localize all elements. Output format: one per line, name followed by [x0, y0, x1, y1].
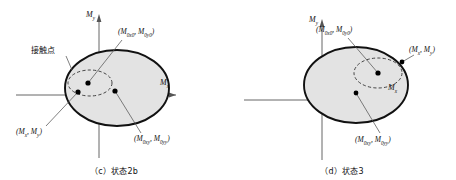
figure-container: Mx My 接触点 (M0x0, M0y0) (Mx, My) (M0xy, M… — [0, 0, 456, 180]
caption-panel-d: （d）状态3 — [228, 165, 456, 176]
label-center-current-c: (M0xy, M0yy) — [134, 135, 170, 143]
label-contact-point-d: (Mx, My) — [409, 46, 435, 54]
label-center-initial-c: (M0x0, M0y0) — [118, 28, 154, 36]
marker-contact-point-c — [75, 89, 80, 94]
marker-dashed-center-d — [375, 70, 380, 75]
x-axis-label-d: Mx — [388, 84, 397, 92]
marker-solid-center-c — [112, 88, 117, 93]
panel-state-3: Mx My (M0x0, M0y0) (Mx, My) (M0xy, M0yy)… — [228, 0, 456, 180]
panel-c-graphic — [0, 0, 228, 180]
panel-state-2b: Mx My 接触点 (M0x0, M0y0) (Mx, My) (M0xy, M… — [0, 0, 228, 180]
contact-point-annotation-c: 接触点 — [31, 44, 56, 55]
x-axis-label-c: Mx — [160, 79, 169, 87]
solid-yield-surface-c — [65, 50, 169, 126]
label-center-initial-d: (M0x0, M0y0) — [316, 26, 352, 34]
label-center-current-d: (M0xy, M0yy) — [355, 136, 391, 144]
marker-dashed-center-c — [85, 80, 90, 85]
label-contact-point-c: (Mx, My) — [16, 128, 42, 136]
marker-solid-center-d — [354, 91, 359, 96]
y-axis-label-c: My — [86, 11, 95, 19]
caption-panel-c: （c）状态2b — [0, 165, 228, 176]
marker-contact-point-d — [400, 60, 405, 65]
y-axis-label-d: My — [309, 16, 318, 24]
